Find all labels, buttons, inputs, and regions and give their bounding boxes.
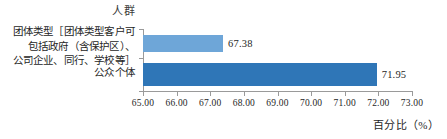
- x-axis-title: 百分比（%）: [373, 119, 439, 132]
- chart-title: 人群: [112, 5, 135, 18]
- x-tick-mark: [412, 92, 413, 96]
- bar-value-label: 71.95: [382, 69, 407, 81]
- bar-chart: 人群 团体类型［团体类型客户可 包括政府（含保护区）、 公司企业、同行、学校等］…: [0, 0, 447, 139]
- bar-value-label: 67.38: [228, 38, 253, 50]
- x-tick-mark: [177, 92, 178, 96]
- x-tick-mark: [143, 92, 144, 96]
- x-tick-mark: [244, 92, 245, 96]
- category-label-line: 团体类型［团体类型客户可: [2, 25, 135, 40]
- category-label-line: 包括政府（含保护区）、: [2, 40, 135, 55]
- category-label-public-individual: 公众个体: [2, 66, 135, 81]
- x-tick-mark: [378, 92, 379, 96]
- category-label-line: 公众个体: [2, 66, 135, 81]
- plot-area: [143, 29, 412, 91]
- x-tick-mark: [311, 92, 312, 96]
- x-tick-mark: [345, 92, 346, 96]
- x-tick-mark: [210, 92, 211, 96]
- bar-group-type: [143, 35, 223, 52]
- category-label-group-type: 团体类型［团体类型客户可 包括政府（含保护区）、 公司企业、同行、学校等］: [2, 25, 135, 69]
- x-tick-label: 73.00: [392, 97, 432, 109]
- bar-public-individual: [143, 63, 377, 86]
- x-tick-mark: [278, 92, 279, 96]
